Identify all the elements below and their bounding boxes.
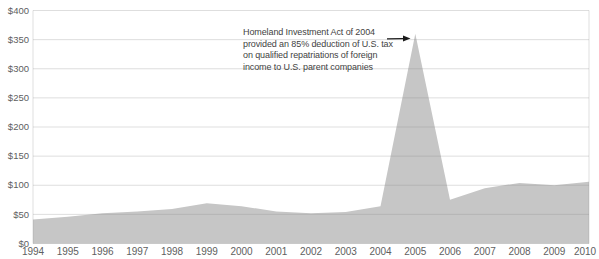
x-axis-tick-label: 2001 [265, 246, 288, 257]
x-axis-tick-label: 1999 [196, 246, 219, 257]
y-axis-tick-label: $150 [8, 150, 29, 161]
x-axis-tick-label: 2006 [439, 246, 462, 257]
annotation-line-3: on qualified repatriations of foreign [243, 50, 393, 62]
y-axis-tick-label: $300 [8, 63, 29, 74]
x-axis-tick-label: 2002 [300, 246, 323, 257]
x-axis-tick-label: 2009 [543, 246, 566, 257]
x-axis-tick-label: 2000 [230, 246, 253, 257]
y-axis-tick-label: $250 [8, 92, 29, 103]
x-axis-tick-label: 2010 [574, 246, 597, 257]
x-axis-tick-label: 1994 [22, 246, 45, 257]
x-axis-tick-label: 1995 [57, 246, 80, 257]
annotation-line-1: Homeland Investment Act of 2004 [243, 27, 393, 39]
x-axis-tick-label: 1997 [126, 246, 149, 257]
y-axis-tick-label: $100 [8, 179, 29, 190]
y-axis-tick-label: $350 [8, 34, 29, 45]
x-axis-tick-label: 2007 [474, 246, 497, 257]
x-axis-tick-label: 1996 [91, 246, 114, 257]
x-axis-tick-label: 1998 [161, 246, 184, 257]
x-axis-tick-label: 2003 [335, 246, 358, 257]
y-axis-tick-label: $400 [8, 5, 29, 16]
annotation-line-2: provided an 85% deduction of U.S. tax [243, 39, 393, 51]
annotation-arrowhead [403, 36, 411, 42]
y-axis-tick-label: $200 [8, 121, 29, 132]
x-axis-tick-label: 2008 [508, 246, 531, 257]
chart-annotation: Homeland Investment Act of 2004 provided… [243, 27, 393, 73]
annotation-line-4: income to U.S. parent companies [243, 62, 393, 74]
y-axis-tick-label: $50 [13, 209, 29, 220]
chart-container: $0$50$100$150$200$250$300$350$4001994199… [0, 0, 599, 259]
x-axis-tick-label: 2004 [369, 246, 392, 257]
x-axis-tick-label: 2005 [404, 246, 427, 257]
